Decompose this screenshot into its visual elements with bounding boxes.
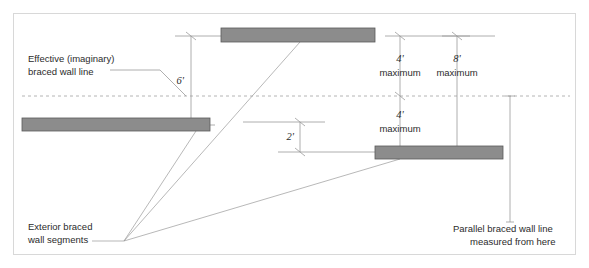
- exterior-leader-to-left-wall: [124, 131, 196, 241]
- top-wall-segment: [221, 28, 375, 42]
- dimension-4ft-max-value: 4': [396, 53, 404, 64]
- exterior-note-line1: Exterior braced: [28, 221, 92, 232]
- effective-line-note-line2: braced wall line: [28, 66, 93, 77]
- exterior-note-line2: wall segments: [27, 234, 88, 245]
- dimension-2ft-label: 2': [287, 131, 295, 142]
- lower-right-wall-segment: [375, 146, 503, 159]
- parallel-note-line2: measured from here: [470, 236, 556, 247]
- dimension-8ft-max-value: 8': [453, 53, 461, 64]
- braced-wall-line-diagram: 6' 2' 4' maximum 8' maximum 4' maximum E…: [0, 0, 589, 268]
- exterior-leader-to-top-wall: [124, 42, 300, 241]
- dimension-4ft-max-unit: maximum: [379, 67, 420, 78]
- parallel-note-line1: Parallel braced wall line: [453, 223, 553, 234]
- dimension-8ft-max-unit: maximum: [436, 67, 477, 78]
- dimension-6ft-label: 6': [177, 75, 185, 86]
- dimension-4ft-max-lower-value: 4': [396, 109, 404, 120]
- dimension-4ft-max-lower-unit: maximum: [379, 123, 420, 134]
- effective-line-note-line1: Effective (imaginary): [28, 53, 114, 64]
- figure-border: [14, 14, 576, 255]
- diagram-canvas: 6' 2' 4' maximum 8' maximum 4' maximum E…: [0, 0, 589, 268]
- left-wall-segment: [22, 118, 210, 131]
- effective-line-leader: [110, 70, 186, 96]
- exterior-leader-to-lower-wall: [124, 159, 400, 241]
